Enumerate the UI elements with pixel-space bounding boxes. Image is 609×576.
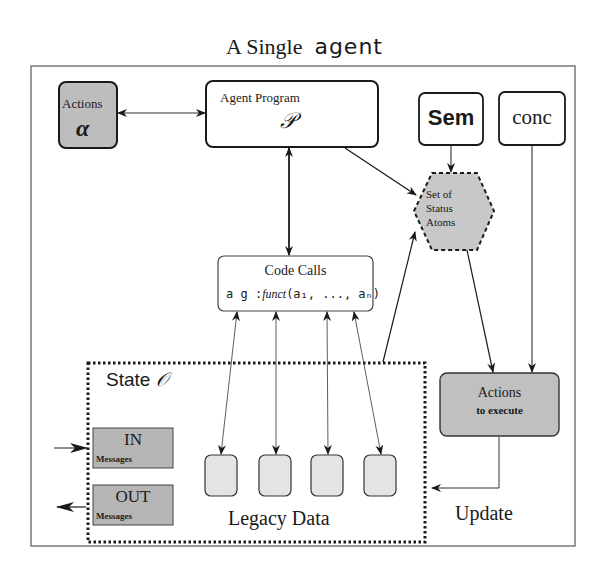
- edge-code-calls-legacy-1: [221, 312, 237, 454]
- update-label: Update: [455, 503, 513, 523]
- code-calls-label: Code Calls: [218, 264, 373, 278]
- legacy-data-box-2[interactable]: [259, 455, 291, 496]
- actions-to-execute-label: Actions: [440, 386, 559, 400]
- agent-program-symbol: 𝒫: [280, 110, 296, 132]
- edge-status-atoms-actions-to-execute: [467, 250, 493, 372]
- code-calls-signature: a g :funct(a₁, ..., aₙ): [226, 288, 380, 300]
- edge-update-to-state: [432, 437, 499, 488]
- actions-symbol: α: [76, 116, 89, 140]
- edge-code-calls-legacy-3: [327, 312, 328, 454]
- code-calls-sig-prefix: a g :: [226, 287, 262, 301]
- title-prefix: A Single: [226, 34, 302, 59]
- title-agent-word: agent: [314, 34, 383, 59]
- code-calls-sig-args: (a₁, ..., aₙ): [286, 287, 380, 301]
- legacy-data-label: Legacy Data: [228, 508, 330, 528]
- legacy-data-box-3[interactable]: [311, 455, 343, 496]
- edge-code-calls-legacy-4: [354, 312, 381, 454]
- diagram-title: A Singleagent: [0, 36, 609, 58]
- legacy-data-box-1[interactable]: [205, 455, 237, 496]
- out-label: OUT: [93, 488, 173, 505]
- actions-label: Actions: [62, 97, 102, 110]
- code-calls-sig-funct: funct: [262, 287, 286, 301]
- edge-agent-program-status-atoms: [345, 148, 416, 195]
- state-label: State 𝒪: [106, 370, 168, 389]
- state-text: State: [106, 369, 150, 390]
- status-atoms-label: Set of Status Atoms: [426, 187, 455, 229]
- legacy-data-box-4[interactable]: [364, 455, 396, 496]
- status-atoms-line3: Atoms: [426, 215, 455, 229]
- edge-state-status-atoms: [383, 232, 415, 362]
- in-sublabel: Messages: [96, 455, 132, 464]
- status-atoms-line1: Set of: [426, 187, 455, 201]
- state-symbol: 𝒪: [156, 369, 168, 390]
- agent-program-label: Agent Program: [220, 91, 300, 104]
- in-label: IN: [93, 431, 173, 448]
- actions-to-execute-sublabel: to execute: [440, 405, 559, 416]
- status-atoms-line2: Status: [426, 201, 455, 215]
- sem-label: Sem: [420, 107, 482, 129]
- conc-label: conc: [499, 107, 565, 128]
- out-sublabel: Messages: [96, 512, 132, 521]
